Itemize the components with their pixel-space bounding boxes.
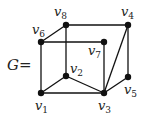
node-v3 xyxy=(101,90,107,96)
graph-name: G xyxy=(7,56,19,74)
graph-equals: = xyxy=(19,56,32,74)
label-v5: v5 xyxy=(124,82,137,99)
graph-diagram: G = v1v2v3v4v5v6v7v8 xyxy=(0,0,141,119)
label-v2: v2 xyxy=(70,61,83,78)
node-v1 xyxy=(38,90,44,96)
node-v8 xyxy=(63,22,69,28)
node-v2 xyxy=(63,73,69,79)
label-v4: v4 xyxy=(121,4,134,21)
edge-v2-v3 xyxy=(66,76,104,93)
node-v6 xyxy=(38,39,44,45)
label-v1: v1 xyxy=(35,98,48,115)
graph-label: G = xyxy=(7,56,32,74)
label-v6: v6 xyxy=(32,22,45,39)
node-v7 xyxy=(101,39,107,45)
label-v3: v3 xyxy=(98,98,111,115)
node-v5 xyxy=(125,74,131,80)
node-labels: v1v2v3v4v5v6v7v8 xyxy=(32,4,137,115)
edge-v2-v1 xyxy=(41,76,66,93)
label-v7: v7 xyxy=(88,43,101,60)
edges xyxy=(41,25,128,93)
node-v4 xyxy=(125,22,131,28)
label-v8: v8 xyxy=(54,4,67,21)
